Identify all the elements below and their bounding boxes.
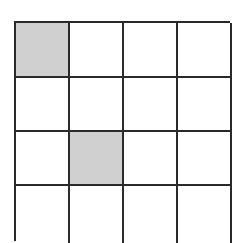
grid-cell-empty[interactable] xyxy=(70,186,124,243)
grid-board xyxy=(14,21,230,241)
grid-cell-empty[interactable] xyxy=(124,23,178,78)
grid-cell-empty[interactable] xyxy=(124,132,178,186)
grid-cell-empty[interactable] xyxy=(16,78,70,132)
grid-cell-filled[interactable] xyxy=(70,132,124,186)
grid-cell-empty[interactable] xyxy=(124,78,178,132)
grid-cell-empty[interactable] xyxy=(178,186,232,243)
grid-cell-empty[interactable] xyxy=(16,186,70,243)
grid-cell-empty[interactable] xyxy=(124,186,178,243)
grid-cell-empty[interactable] xyxy=(178,132,232,186)
grid-cell-empty[interactable] xyxy=(70,23,124,78)
grid-cell-filled[interactable] xyxy=(16,23,70,78)
grid-cell-empty[interactable] xyxy=(178,23,232,78)
grid-cell-empty[interactable] xyxy=(70,78,124,132)
grid-cell-empty[interactable] xyxy=(16,132,70,186)
grid-cell-empty[interactable] xyxy=(178,78,232,132)
